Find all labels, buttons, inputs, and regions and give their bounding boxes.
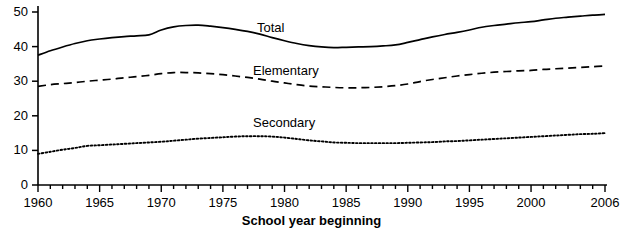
x-axis-tick-label: 1995	[439, 196, 499, 209]
chart-series-lines	[38, 14, 605, 153]
x-axis-title: School year beginning	[0, 214, 623, 227]
chart-ticks	[32, 12, 605, 192]
x-axis-tick-label: 1980	[255, 196, 315, 209]
x-axis-tick-label: 1965	[70, 196, 130, 209]
series-label-secondary: Secondary	[253, 116, 315, 129]
series-line-secondary	[38, 133, 605, 154]
x-axis-tick-label: 1985	[316, 196, 376, 209]
series-line-elementary	[38, 66, 605, 88]
series-label-total: Total	[257, 21, 284, 34]
y-axis-tick-label: 50	[0, 5, 28, 18]
x-axis-tick-label: 1960	[8, 196, 68, 209]
x-axis-tick-label: 1975	[193, 196, 253, 209]
chart-axes	[38, 6, 607, 185]
y-axis-tick-label: 10	[0, 143, 28, 156]
x-axis-tick-label: 1990	[378, 196, 438, 209]
y-axis-tick-label: 20	[0, 109, 28, 122]
series-line-total	[38, 14, 605, 55]
x-axis-tick-label: 1970	[131, 196, 191, 209]
y-axis-tick-label: 40	[0, 40, 28, 53]
y-axis-tick-label: 0	[0, 178, 28, 191]
series-label-elementary: Elementary	[253, 64, 319, 77]
x-axis-tick-label: 2000	[501, 196, 561, 209]
chart-container: 01020304050 1960196519701975198019851990…	[0, 0, 623, 235]
x-axis-tick-label: 2006	[575, 196, 623, 209]
y-axis-tick-label: 30	[0, 74, 28, 87]
